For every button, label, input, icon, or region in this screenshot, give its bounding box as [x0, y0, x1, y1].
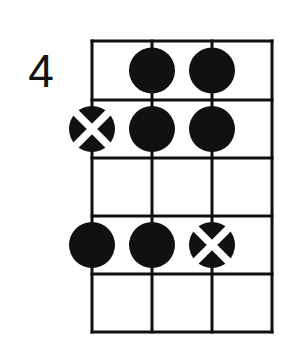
marker-string3-fret1[interactable] [189, 48, 235, 94]
finger-dot-icon [129, 222, 175, 268]
finger-dot-icon [129, 48, 175, 94]
chord-diagram: 4 [0, 0, 294, 347]
marker-string3-fret2[interactable] [189, 106, 235, 152]
marker-string3-fret4[interactable] [189, 222, 235, 268]
finger-dot-icon [189, 106, 235, 152]
marker-string2-fret1[interactable] [129, 48, 175, 94]
marker-string2-fret4[interactable] [129, 222, 175, 268]
fretboard-grid [92, 41, 272, 332]
finger-dot-icon [69, 222, 115, 268]
marker-string1-fret2[interactable] [69, 106, 115, 152]
starting-fret-number: 4 [12, 44, 70, 98]
marker-string2-fret2[interactable] [129, 106, 175, 152]
fret-lines-group [92, 41, 272, 332]
string-lines-group [92, 41, 272, 332]
finger-dot-icon [189, 48, 235, 94]
marker-string1-fret4[interactable] [69, 222, 115, 268]
fretboard-svg [92, 41, 272, 332]
finger-dot-icon [129, 106, 175, 152]
